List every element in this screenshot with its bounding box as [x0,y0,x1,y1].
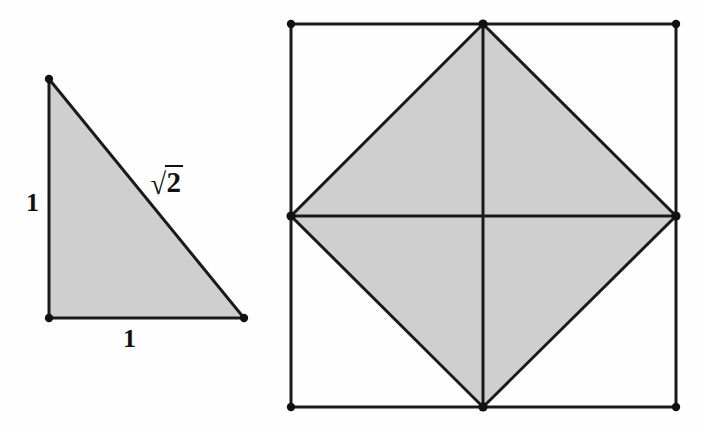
radicand-value: 2 [165,165,183,197]
diamond-vertex-right-mid-dot [671,211,680,220]
square-corner-bottom-right-dot [672,403,680,411]
square-with-inscribed-square-group [286,19,680,411]
geometry-figure-canvas: 1 1 √2 [0,0,703,432]
diamond-vertex-bottom-mid-dot [478,402,487,411]
figure-svg [0,0,703,432]
unit-right-triangle-group [45,75,248,322]
triangle-hypotenuse-label: √2 [148,166,183,198]
diamond-vertex-left-mid-dot [286,211,295,220]
diamond-vertex-top-mid-dot [478,19,487,28]
triangle-vertex-right-angle-dot [45,314,53,322]
square-root-icon: √ [150,169,166,199]
unit-right-triangle-shape [49,79,244,318]
square-corner-bottom-left-dot [287,403,295,411]
triangle-horizontal-leg-label: 1 [123,326,136,352]
radical-expression: √2 [148,166,183,198]
triangle-vertex-base-right-dot [240,314,248,322]
triangle-vertex-apex-dot [45,75,53,83]
triangle-vertical-leg-label: 1 [26,190,39,216]
square-corner-top-right-dot [672,20,680,28]
square-corner-top-left-dot [287,20,295,28]
